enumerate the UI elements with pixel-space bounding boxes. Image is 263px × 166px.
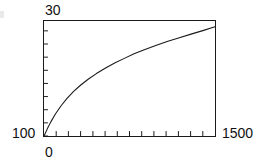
plot-area (44, 21, 215, 136)
decay-curve (44, 27, 215, 136)
y-axis-max-label: 30 (45, 3, 61, 17)
plot-frame (43, 20, 216, 137)
x-axis-ticks (56, 131, 203, 136)
chart-figure: 30 100 0 1500 (0, 0, 263, 166)
x-axis-max-label: 1500 (222, 126, 253, 140)
crop-edge-artifact (0, 11, 4, 18)
x-axis-min-label: 0 (45, 145, 53, 159)
plot-svg (44, 21, 215, 136)
y-axis-min-label: 100 (12, 126, 35, 140)
y-axis-ticks (44, 31, 48, 136)
